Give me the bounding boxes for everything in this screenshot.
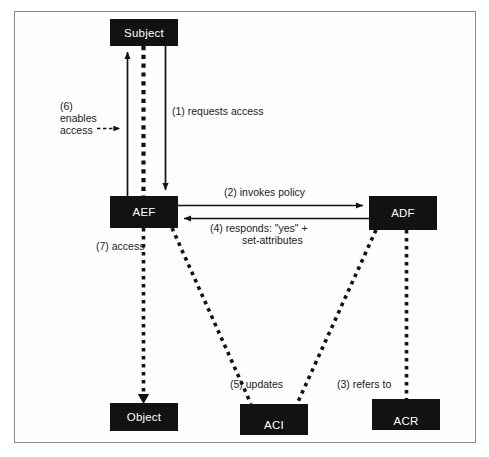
node-subject-label: Subject [124,27,164,39]
edge-label-5-updates: (5) updates [230,378,283,391]
connector-3-refers-to [401,230,413,412]
node-adf[interactable]: ADF [369,196,437,230]
edge-label-1-requests-access: (1) requests access [172,105,264,118]
node-aef[interactable]: AEF [110,196,178,228]
node-subject[interactable]: Subject [110,19,178,46]
edge-label-6-enables-access-line2: enables [60,112,97,125]
edge-label-6-enables-access-line1: (6) [60,100,73,113]
edge-label-7-access: (7) access [96,240,144,253]
diagram-canvas: Subject AEF ADF Object ACI ACR (1) reque… [0,0,489,457]
node-object-label: Object [127,411,161,423]
node-acr-label: ACR [394,415,419,427]
connector-5-updates-from-aef [172,228,258,420]
node-acr[interactable]: ACR [372,399,440,430]
node-adf-label: ADF [391,207,415,219]
node-object[interactable]: Object [110,403,178,431]
edge-label-4-responds-line1: (4) responds: "yes" + [210,222,308,235]
edge-label-3-refers-to: (3) refers to [337,378,391,391]
edge-label-4-responds-line2: set-attributes [242,234,303,247]
node-aci-label: ACI [264,419,284,431]
connector-6-enables-access [97,52,128,196]
connector-7-access [138,228,149,404]
edge-label-6-enables-access-line3: access [60,124,93,137]
node-aef-label: AEF [133,206,156,218]
connector-5-updates-from-adf [290,230,376,420]
edge-label-2-invokes-policy: (2) invokes policy [224,186,305,199]
node-aci[interactable]: ACI [240,404,308,435]
